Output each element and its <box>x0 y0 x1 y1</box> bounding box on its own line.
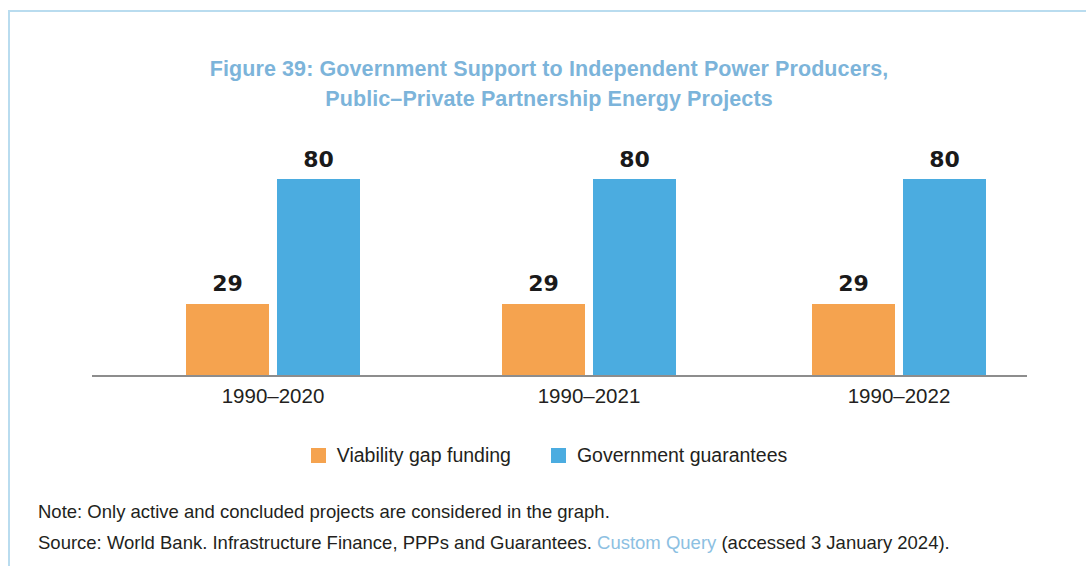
legend-label: Viability gap funding <box>337 444 511 467</box>
bar-wrapper-vgf-1: 29 <box>502 162 585 375</box>
legend-item-viability-gap-funding[interactable]: Viability gap funding <box>311 444 511 467</box>
chart-title-line-2: Public–Private Partnership Energy Projec… <box>10 84 1088 114</box>
note-text: Note: Only active and concluded projects… <box>38 496 1078 527</box>
bar-wrapper-gg-0: 80 <box>277 162 360 375</box>
plot-area: 29 80 29 80 29 80 <box>84 162 1034 377</box>
figure-frame: Figure 39: Government Support to Indepen… <box>8 10 1086 566</box>
bar-government-guarantees[interactable] <box>593 179 676 375</box>
legend-swatch-icon <box>551 448 566 463</box>
bar-wrapper-vgf-0: 29 <box>186 162 269 375</box>
bar-viability-gap-funding[interactable] <box>186 304 269 375</box>
legend-label: Government guarantees <box>577 444 787 467</box>
bar-value-label: 29 <box>794 271 914 296</box>
bar-government-guarantees[interactable] <box>277 179 360 375</box>
chart-title-line-1: Figure 39: Government Support to Indepen… <box>210 57 889 81</box>
bar-viability-gap-funding[interactable] <box>812 304 895 375</box>
x-tick-label: 1990–2022 <box>784 384 1014 408</box>
source-text: Source: World Bank. Infrastructure Finan… <box>38 527 1078 558</box>
footnotes: Note: Only active and concluded projects… <box>38 496 1078 558</box>
source-prefix: Source: World Bank. Infrastructure Finan… <box>38 532 597 553</box>
legend-item-government-guarantees[interactable]: Government guarantees <box>551 444 787 467</box>
bar-wrapper-gg-2: 80 <box>903 162 986 375</box>
custom-query-link[interactable]: Custom Query <box>597 532 716 553</box>
chart-legend: Viability gap funding Government guarant… <box>10 444 1088 467</box>
x-tick-label: 1990–2020 <box>158 384 388 408</box>
x-tick-label: 1990–2021 <box>474 384 704 408</box>
bar-group: 29 80 <box>784 162 1014 375</box>
x-axis-line <box>92 375 1027 377</box>
bar-value-label: 29 <box>484 271 604 296</box>
page-title: Figure 39: Government Support to Indepen… <box>10 54 1088 114</box>
legend-swatch-icon <box>311 448 326 463</box>
bar-wrapper-vgf-2: 29 <box>812 162 895 375</box>
bar-wrapper-gg-1: 80 <box>593 162 676 375</box>
bar-government-guarantees[interactable] <box>903 179 986 375</box>
bar-group: 29 80 <box>474 162 704 375</box>
bar-viability-gap-funding[interactable] <box>502 304 585 375</box>
source-suffix: (accessed 3 January 2024). <box>716 532 949 553</box>
bar-value-label: 29 <box>168 271 288 296</box>
bar-value-label: 80 <box>885 147 1005 172</box>
bar-value-label: 80 <box>575 147 695 172</box>
bar-value-label: 80 <box>259 147 379 172</box>
bar-group: 29 80 <box>158 162 388 375</box>
x-axis-tick-labels: 1990–2020 1990–2021 1990–2022 <box>84 384 1034 414</box>
